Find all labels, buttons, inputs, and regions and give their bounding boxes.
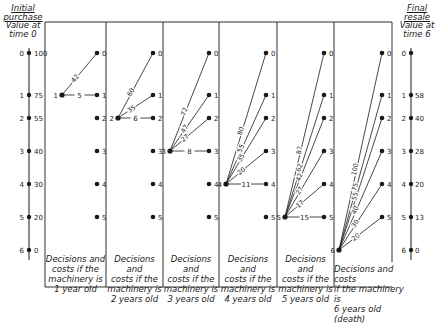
left-axis-value-label: 100 xyxy=(34,50,47,58)
state-node xyxy=(264,215,269,220)
caption-line: machinery is xyxy=(45,274,106,284)
state-node-label: 5 xyxy=(329,214,333,222)
source-node xyxy=(167,148,172,153)
right-axis-node xyxy=(409,116,413,120)
panel-1-caption: Decisions and costs if the machinery is … xyxy=(45,254,106,294)
decision-edge xyxy=(285,95,324,217)
state-node-label: 4 xyxy=(102,181,107,189)
state-node-label: 4 xyxy=(329,181,334,189)
state-node-label: 1 xyxy=(387,92,391,100)
source-node-label: 1 xyxy=(54,92,58,100)
panel-6-caption: Decisions and costs if the machinery is … xyxy=(334,264,410,324)
edge-cost-label: 8 xyxy=(187,148,191,156)
left-axis-state-label: 0 xyxy=(20,50,24,58)
edge-cost-label: 20 xyxy=(236,165,247,176)
caption-line: 1 year old xyxy=(45,284,106,294)
caption-line: machinery is xyxy=(219,284,277,294)
decision-edge xyxy=(339,184,382,250)
caption-line: Decisions and xyxy=(277,254,334,274)
panel-3-caption: Decisions and costs if the machinery is … xyxy=(163,254,219,304)
state-node xyxy=(95,116,100,121)
state-node-label: 5 xyxy=(271,214,275,222)
caption-line: 5 years old xyxy=(277,294,334,304)
caption-line: Decisions and xyxy=(106,254,163,274)
state-node-label: 3 xyxy=(329,148,333,156)
state-node-label: 0 xyxy=(214,50,218,58)
left-axis-state-label: 1 xyxy=(20,92,24,100)
state-node-label: 4 xyxy=(271,181,276,189)
source-node xyxy=(115,115,120,120)
right-axis-node xyxy=(409,51,413,55)
caption-line: Decisions and xyxy=(163,254,219,274)
state-node-label: 5 xyxy=(158,214,162,222)
left-axis-value-label: 55 xyxy=(34,115,43,123)
left-axis-state-label: 3 xyxy=(20,148,24,156)
state-node xyxy=(151,149,156,154)
state-node-label: 1 xyxy=(271,92,275,100)
caption-line: machinery is xyxy=(277,284,334,294)
state-node-label: 1 xyxy=(214,92,218,100)
caption-line: costs if the xyxy=(45,264,106,274)
state-node-label: 3 xyxy=(271,148,275,156)
left-axis-value-label: 40 xyxy=(34,148,43,156)
caption-line: costs if the xyxy=(163,274,219,284)
right-axis-state-label: 1 xyxy=(402,92,406,100)
decision-edge xyxy=(339,95,382,250)
state-node-label: 0 xyxy=(329,50,333,58)
right-axis-node xyxy=(409,93,413,97)
state-node-label: 5 xyxy=(102,214,106,222)
right-axis-value-label: 0 xyxy=(415,247,419,255)
caption-line: machinery is xyxy=(106,284,163,294)
right-axis-node xyxy=(409,248,413,252)
left-axis-node xyxy=(27,93,31,97)
state-node-label: 3 xyxy=(214,148,218,156)
caption-line: 2 years old xyxy=(106,294,163,304)
state-node xyxy=(207,182,212,187)
right-axis-node xyxy=(409,215,413,219)
decision-edge xyxy=(170,53,209,151)
right-axis-value-label: 40 xyxy=(415,115,424,123)
left-axis-state-label: 2 xyxy=(20,115,24,123)
state-node-label: 4 xyxy=(158,181,163,189)
left-axis-state-label: 5 xyxy=(20,214,24,222)
edge-cost-label: 5 xyxy=(77,92,81,100)
state-node-label: 3 xyxy=(387,148,391,156)
decision-edge xyxy=(62,53,97,95)
edge-cost-label: 35 xyxy=(126,104,137,115)
edge-cost-label: 30 xyxy=(350,218,361,229)
state-node xyxy=(95,182,100,187)
panel-2-caption: Decisions and costs if the machinery is … xyxy=(106,254,163,304)
edge-cost-label: 27 xyxy=(294,185,305,196)
edge-cost-label: 11 xyxy=(242,181,251,189)
decision-edge xyxy=(285,151,324,217)
state-node-label: 1 xyxy=(329,92,333,100)
right-axis-state-label: 3 xyxy=(402,148,406,156)
decision-edge xyxy=(226,118,266,184)
right-axis-value-label: 58 xyxy=(415,92,424,100)
decision-edge xyxy=(339,118,382,250)
left-axis-node xyxy=(27,116,31,120)
decision-edge xyxy=(285,53,324,217)
left-axis-value-label: 0 xyxy=(34,247,38,255)
edge-cost-label: 42 xyxy=(294,172,304,183)
caption-line: 4 years old xyxy=(219,294,277,304)
left-axis-node xyxy=(27,182,31,186)
source-node-label: 3 xyxy=(162,148,166,156)
edge-cost-label: 72 xyxy=(179,106,189,117)
state-node-label: 1 xyxy=(102,92,106,100)
state-node-label: 3 xyxy=(102,148,106,156)
state-node-label: 0 xyxy=(102,50,106,58)
caption-line: 6 years old (death) xyxy=(334,304,410,324)
state-node-label: 0 xyxy=(387,50,391,58)
left-axis-value-label: 30 xyxy=(34,181,43,189)
state-node-label: 2 xyxy=(271,115,275,123)
left-axis-node xyxy=(27,149,31,153)
left-axis-node xyxy=(27,215,31,219)
right-axis-state-label: 5 xyxy=(402,214,406,222)
source-node xyxy=(223,181,228,186)
edge-cost-label: 87 xyxy=(295,145,305,155)
panel-4-caption: Decisions and costs if the machinery is … xyxy=(219,254,277,304)
left-axis-title: Initial purchase Value at time 0 xyxy=(2,4,44,38)
state-node xyxy=(95,149,100,154)
edge-cost-label: 80 xyxy=(236,126,246,136)
